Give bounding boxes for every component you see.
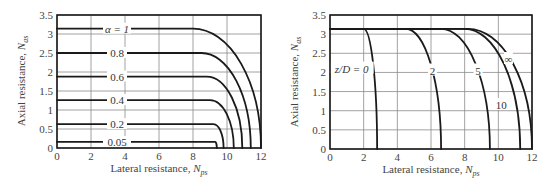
x-tick-label: 12 xyxy=(256,150,267,162)
x-tick-label: 4 xyxy=(122,150,128,162)
curve-label: 2 xyxy=(430,65,436,77)
right-y-axis-label: Axial resistance, Nas xyxy=(288,37,303,128)
x-tick-label: 0 xyxy=(327,151,333,163)
curve-label: 5 xyxy=(475,65,481,77)
right-x-axis-label: Lateral resistance, Nps xyxy=(382,163,479,178)
y-tick-label: 3.5 xyxy=(312,9,326,21)
x-tick-label: 10 xyxy=(222,150,234,162)
curve-0 xyxy=(330,29,377,149)
x-tick-label: 8 xyxy=(462,151,468,163)
x-tick-label: 2 xyxy=(88,150,94,162)
curve-4 xyxy=(57,124,224,148)
y-tick-label: 0 xyxy=(321,143,327,155)
right-x-tick-labels: 024681012 xyxy=(327,151,537,163)
y-tick-label: 2.5 xyxy=(39,47,53,59)
curve-label: 0.6 xyxy=(110,71,124,83)
y-tick-label: 1 xyxy=(48,104,54,116)
x-tick-label: 4 xyxy=(395,151,401,163)
curve-label: α = 1 xyxy=(105,23,129,35)
x-tick-label: 12 xyxy=(527,151,538,163)
x-tick-label: 2 xyxy=(361,151,367,163)
y-tick-label: 3.5 xyxy=(39,9,53,21)
left-x-tick-labels: 024681012 xyxy=(54,150,266,162)
y-tick-label: 1.5 xyxy=(39,85,53,97)
x-tick-label: 10 xyxy=(493,151,505,163)
y-tick-label: 0 xyxy=(48,142,54,154)
right-chart: z/D = 02510∞ 024681012 00.511.522.533.5 … xyxy=(288,9,538,178)
y-tick-label: 0.5 xyxy=(312,124,326,136)
y-tick-label: 0.5 xyxy=(39,123,53,135)
left-x-axis-label: Lateral resistance, Nps xyxy=(110,162,207,177)
curve-label: 10 xyxy=(496,99,508,111)
right-y-tick-labels: 00.511.522.533.5 xyxy=(312,9,326,155)
y-tick-label: 3 xyxy=(48,28,54,40)
y-tick-label: 3 xyxy=(321,28,327,40)
right-gridlines xyxy=(330,15,532,149)
curve-label: z/D = 0 xyxy=(334,63,369,75)
x-tick-label: 6 xyxy=(156,150,162,162)
curve-1 xyxy=(330,29,441,149)
curve-label: ∞ xyxy=(505,53,513,65)
y-tick-label: 1.5 xyxy=(312,86,326,98)
curve-2 xyxy=(330,29,490,149)
y-tick-label: 2 xyxy=(321,66,327,78)
curve-2 xyxy=(57,77,242,148)
left-chart: α = 10.80.60.40.20.05 024681012 00.511.5… xyxy=(15,9,267,177)
x-tick-label: 8 xyxy=(190,150,196,162)
curve-label: 0.4 xyxy=(110,94,124,106)
curve-label: 0.2 xyxy=(110,118,124,130)
y-tick-label: 2 xyxy=(48,66,54,78)
left-y-tick-labels: 00.511.522.533.5 xyxy=(39,9,53,154)
left-y-axis-label: Axial resistance, Nas xyxy=(15,36,30,127)
figure-canvas: α = 10.80.60.40.20.05 024681012 00.511.5… xyxy=(0,0,555,190)
x-tick-label: 6 xyxy=(428,151,434,163)
y-tick-label: 1 xyxy=(321,105,327,117)
curve-label: 0.8 xyxy=(110,47,124,59)
curve-label: 0.05 xyxy=(107,136,127,148)
left-gridlines xyxy=(57,15,261,148)
y-tick-label: 2.5 xyxy=(312,47,326,59)
x-tick-label: 0 xyxy=(54,150,60,162)
